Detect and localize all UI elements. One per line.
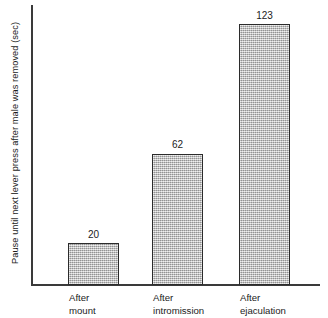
bar-value-label: 62 xyxy=(152,139,203,150)
y-axis-label-text: Pause until next lever press after male … xyxy=(10,21,20,263)
x-axis-category-label: Afterejaculation xyxy=(240,291,286,317)
x-axis-category-label-line1: After xyxy=(69,291,96,304)
bar xyxy=(68,243,119,285)
x-axis-category-label-line2: ejaculation xyxy=(240,304,286,317)
bar-chart: Pause until next lever press after male … xyxy=(0,0,328,318)
x-axis-category-label-line2: mount xyxy=(69,304,96,317)
x-axis-category-label-line1: After xyxy=(153,291,204,304)
y-axis-label: Pause until next lever press after male … xyxy=(0,0,30,285)
x-axis-category-label: Afterintromission xyxy=(153,291,204,317)
bar-value-label: 20 xyxy=(68,229,119,240)
x-axis-category-label-line1: After xyxy=(240,291,286,304)
x-axis-category-label: Aftermount xyxy=(69,291,96,317)
bar-value-label: 123 xyxy=(239,10,290,21)
x-axis-category-label-line2: intromission xyxy=(153,304,204,317)
bar xyxy=(152,154,203,286)
bar xyxy=(239,24,290,285)
